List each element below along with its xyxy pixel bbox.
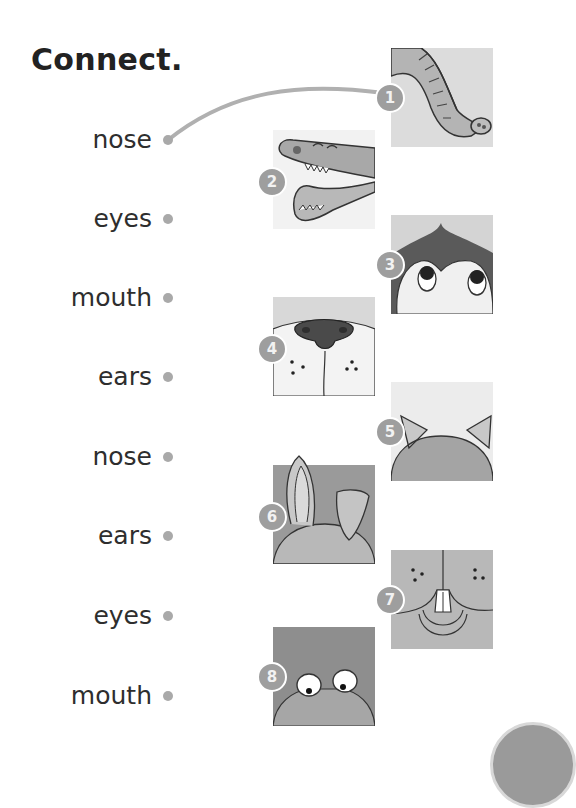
word-eyes: eyes: [93, 206, 152, 231]
word-ears: ears: [98, 364, 152, 389]
connect-dot[interactable]: [163, 135, 173, 145]
picture-cat-ears[interactable]: [391, 382, 493, 481]
page-corner-decoration: [490, 722, 576, 808]
picture-number-badge: 6: [257, 502, 287, 532]
picture-elephant-trunk[interactable]: [391, 48, 493, 147]
picture-rabbit-mouth[interactable]: [391, 550, 493, 649]
connect-dot[interactable]: [163, 531, 173, 541]
picture-number-badge: 4: [257, 334, 287, 364]
elephant-trunk-icon: [391, 48, 493, 147]
picture-crocodile-mouth[interactable]: [273, 130, 375, 229]
word-nose: nose: [92, 127, 152, 152]
cat-ears-icon: [391, 382, 493, 481]
picture-number-badge: 5: [375, 417, 405, 447]
connect-dot[interactable]: [163, 452, 173, 462]
picture-number-badge: 2: [257, 167, 287, 197]
word-ears: ears: [98, 523, 152, 548]
connect-dot[interactable]: [163, 214, 173, 224]
picture-rabbit-ears[interactable]: [273, 465, 375, 564]
word-mouth: mouth: [71, 285, 152, 310]
picture-frog-eyes[interactable]: [273, 627, 375, 726]
picture-number-badge: 7: [375, 585, 405, 615]
word-nose: nose: [92, 444, 152, 469]
picture-number-badge: 3: [375, 250, 405, 280]
frog-icon: [273, 627, 375, 726]
rabbit-ears-icon: [273, 454, 375, 564]
word-eyes: eyes: [93, 603, 152, 628]
crocodile-icon: [273, 130, 375, 229]
word-mouth: mouth: [71, 683, 152, 708]
connect-dot[interactable]: [163, 372, 173, 382]
rabbit-mouth-icon: [391, 550, 493, 649]
dog-nose-icon: [273, 297, 375, 396]
picture-number-badge: 1: [375, 83, 405, 113]
connect-dot[interactable]: [163, 611, 173, 621]
connect-dot[interactable]: [163, 293, 173, 303]
penguin-icon: [391, 215, 493, 314]
picture-number-badge: 8: [257, 662, 287, 692]
picture-dog-nose[interactable]: [273, 297, 375, 396]
picture-penguin-eyes[interactable]: [391, 215, 493, 314]
connect-dot[interactable]: [163, 691, 173, 701]
